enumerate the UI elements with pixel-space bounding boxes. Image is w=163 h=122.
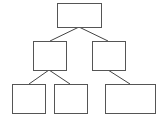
edge-right-leaf (108, 70, 130, 84)
node-right-leaf (106, 85, 156, 114)
node-left-right-leaf (55, 85, 88, 114)
node-root (58, 4, 102, 28)
tree-diagram (0, 0, 163, 122)
node-left-left-leaf (13, 85, 46, 114)
edge-left-rightleaf (49, 70, 70, 84)
edge-root-right (79, 27, 108, 41)
edge-root-left (50, 27, 79, 41)
nodes (13, 4, 156, 114)
node-right-child (93, 42, 126, 71)
node-left-child (34, 42, 67, 71)
edge-left-leftleaf (29, 70, 49, 84)
